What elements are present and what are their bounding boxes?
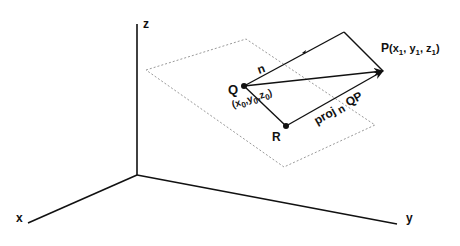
- x-axis-label: x: [16, 211, 23, 225]
- y-axis: [137, 175, 397, 224]
- z-axis-label: z: [143, 17, 149, 31]
- parallelogram-edge-top: [344, 32, 383, 71]
- vectors: [244, 32, 383, 126]
- point-R-label: R: [272, 130, 281, 144]
- svg-text:P(x1, y1, z1): P(x1, y1, z1): [381, 41, 440, 57]
- diagram-canvas: z x y P(x1, y1, z1) Q (x0,y0,z0) R n: [0, 0, 460, 246]
- y-axis-label: y: [406, 211, 413, 225]
- normal-vector-label: n: [255, 61, 267, 77]
- svg-text:projnQP: projnQP: [312, 89, 366, 129]
- projection-label: projnQP: [312, 89, 366, 129]
- axes: [28, 24, 397, 224]
- point-Q: [241, 83, 247, 89]
- x-axis: [28, 175, 137, 223]
- point-Q-label: Q: [228, 82, 238, 97]
- point-P-label: P(x1, y1, z1): [381, 41, 440, 57]
- normal-vector-n: [244, 32, 344, 86]
- point-R: [283, 123, 289, 129]
